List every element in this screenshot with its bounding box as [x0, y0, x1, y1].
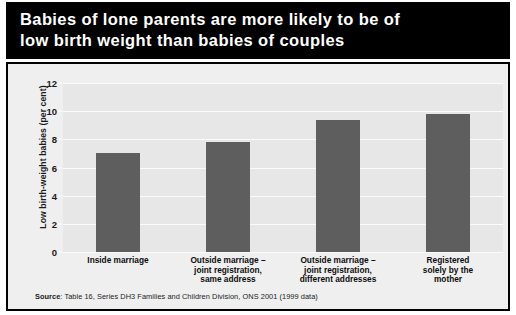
bar	[316, 120, 360, 252]
chart-panel: Low birth-weight babies (per cent) 02468…	[6, 62, 510, 311]
y-axis-tick-label: 2	[52, 218, 57, 229]
y-axis-tick-mark	[58, 195, 62, 196]
y-axis-tick-label: 8	[52, 134, 57, 145]
x-axis-category-label: Inside marriage	[63, 256, 173, 266]
source-text: : Table 16, Series DH3 Families and Chil…	[60, 292, 317, 301]
chart-figure: Babies of lone parents are more likely t…	[0, 0, 516, 315]
y-axis-tick-label: 10	[46, 106, 57, 117]
plot-area: 024681012Inside marriageOutside marriage…	[63, 83, 503, 252]
gridline	[63, 252, 503, 253]
gridline	[63, 111, 503, 112]
y-axis-tick-mark	[58, 83, 62, 84]
bar	[96, 153, 140, 252]
bar	[206, 142, 250, 252]
title-band: Babies of lone parents are more likely t…	[6, 2, 510, 59]
x-axis-category-label: Outside marriage – joint registration, d…	[283, 256, 393, 285]
y-axis-title: Low birth-weight babies (per cent)	[38, 67, 48, 247]
y-axis-tick-mark	[58, 223, 62, 224]
x-axis-category-label: Registered solely by the mother	[393, 256, 503, 285]
source-label: Source	[35, 292, 60, 301]
x-axis-category-label: Outside marriage – joint registration, s…	[173, 256, 283, 285]
y-axis-tick-mark	[58, 111, 62, 112]
source-note: Source: Table 16, Series DH3 Families an…	[35, 292, 318, 301]
bar	[426, 114, 470, 252]
y-axis-tick-label: 6	[52, 162, 57, 173]
y-axis-tick-mark	[58, 167, 62, 168]
y-axis-tick-mark	[58, 139, 62, 140]
y-axis-tick-mark	[58, 252, 62, 253]
y-axis-tick-label: 4	[52, 190, 57, 201]
y-axis-tick-label: 12	[46, 78, 57, 89]
y-axis-tick-label: 0	[52, 247, 57, 258]
chart-title: Babies of lone parents are more likely t…	[20, 9, 500, 51]
gridline	[63, 83, 503, 84]
